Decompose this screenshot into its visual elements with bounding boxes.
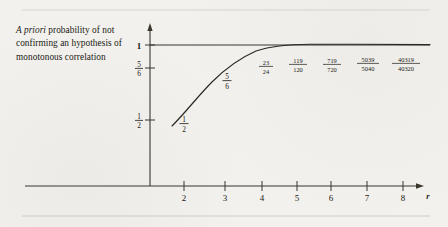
point-label-40319-40320: 40319 40320	[392, 56, 420, 72]
x-tick-label-6: 6	[329, 193, 334, 203]
y-tick-label-1: 1	[137, 41, 142, 51]
x-tick-label-3: 3	[223, 193, 228, 203]
x-tick-label-4: 4	[260, 193, 265, 203]
point-label-5039-5040-numerator: 5039	[362, 56, 375, 63]
point-label-719-720: 719 720	[323, 57, 341, 73]
x-axis-label: r	[426, 191, 430, 201]
point-label-40319-40320-denominator: 40320	[398, 65, 414, 72]
y-tick-1-2-denominator: 2	[137, 121, 141, 130]
point-label-1-2: 1 2	[180, 115, 189, 134]
point-label-719-720-denominator: 720	[327, 66, 337, 73]
point-label-5039-5040: 5039 5040	[357, 56, 379, 72]
y-tick-label-1-2: 1 2	[135, 112, 143, 130]
point-label-119-120-denominator: 120	[293, 66, 303, 73]
y-tick-5-6-numerator: 5	[137, 60, 141, 69]
point-label-5039-5040-denominator: 5040	[362, 65, 375, 72]
point-label-5-6-denominator: 6	[225, 82, 229, 91]
point-label-119-120-numerator: 119	[293, 57, 302, 64]
x-tick-label-8: 8	[401, 193, 406, 203]
point-label-1-2-numerator: 1	[182, 115, 186, 124]
point-label-719-720-numerator: 719	[327, 57, 337, 64]
y-axis-arrow	[147, 23, 152, 31]
x-tick-label-2: 2	[182, 193, 187, 203]
x-tick-label-7: 7	[365, 193, 370, 203]
point-label-119-120: 119 120	[289, 57, 307, 73]
figure-container: A priori probability of not confirming a…	[0, 0, 448, 227]
point-label-23-24: 23 24	[259, 59, 273, 75]
plot-svg: r 1 5 6 1 2 2 3 4 5 6	[0, 0, 448, 227]
point-label-5-6: 5 6	[223, 72, 232, 91]
y-tick-1-2-numerator: 1	[137, 112, 141, 121]
point-label-5-6-numerator: 5	[225, 72, 229, 81]
x-axis-arrow	[416, 183, 424, 188]
y-tick-label-5-6: 5 6	[135, 60, 143, 78]
point-label-23-24-denominator: 24	[263, 68, 270, 75]
point-label-1-2-denominator: 2	[182, 125, 186, 134]
x-tick-label-5: 5	[295, 193, 300, 203]
point-label-23-24-numerator: 23	[263, 59, 269, 66]
y-tick-5-6-denominator: 6	[137, 69, 141, 78]
point-label-40319-40320-numerator: 40319	[398, 56, 414, 63]
